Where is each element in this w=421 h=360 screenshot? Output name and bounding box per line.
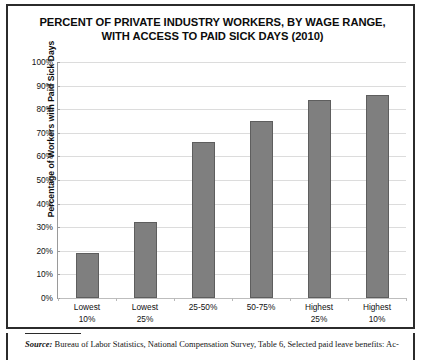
x-category-label-line-2: 25% — [116, 314, 174, 326]
x-category-label: Highest25% — [290, 302, 348, 325]
x-tick-mark — [174, 298, 175, 301]
y-tick-mark — [57, 156, 60, 157]
y-tick-mark — [57, 86, 60, 87]
x-tick-mark — [290, 298, 291, 301]
gridline-10% — [58, 274, 406, 275]
x-tick-mark — [348, 298, 349, 301]
footnote: Source: Bureau of Labor Statistics, Nati… — [25, 339, 403, 350]
y-tick-label: 10% — [9, 270, 53, 278]
x-category-label: Lowest25% — [116, 302, 174, 325]
y-tick-mark — [57, 133, 60, 134]
x-category-label-line-2: 10% — [58, 314, 116, 326]
chart-page: PERCENT OF PRIVATE INDUSTRY WORKERS, BY … — [0, 0, 421, 360]
x-category-label-line-1: Highest — [348, 302, 406, 314]
gridline-30% — [58, 227, 406, 228]
gridline-100% — [58, 62, 406, 63]
y-tick-mark — [57, 227, 60, 228]
page-left-rule — [6, 333, 8, 360]
x-category-label-line-1: 25-50% — [174, 302, 232, 314]
x-tick-mark — [232, 298, 233, 301]
x-category-label-line-1: Lowest — [58, 302, 116, 314]
x-tick-mark — [116, 298, 117, 301]
chart-title: PERCENT OF PRIVATE INDUSTRY WORKERS, BY … — [20, 15, 405, 43]
bar — [250, 121, 273, 298]
x-category-label-line-1: Highest — [290, 302, 348, 314]
y-tick-label: 60% — [9, 152, 53, 160]
y-tick-label: 20% — [9, 247, 53, 255]
x-category-label-line-2: 25% — [290, 314, 348, 326]
y-tick-label: 80% — [9, 105, 53, 113]
plot-area — [58, 62, 406, 298]
x-category-label: Highest10% — [348, 302, 406, 325]
footnote-rule — [25, 333, 81, 334]
y-tick-mark — [57, 251, 60, 252]
page-right-rule — [413, 333, 415, 360]
y-tick-mark — [57, 62, 60, 63]
x-axis-category-labels: Lowest10%Lowest25%25-50%50-75%Highest25%… — [58, 302, 406, 336]
chart-title-line-2: WITH ACCESS TO PAID SICK DAYS (2010) — [20, 29, 405, 43]
bar — [366, 95, 389, 298]
chart-frame: PERCENT OF PRIVATE INDUSTRY WORKERS, BY … — [6, 4, 415, 329]
y-tick-label: 40% — [9, 200, 53, 208]
gridline-70% — [58, 133, 406, 134]
gridline-60% — [58, 156, 406, 157]
bar — [192, 142, 215, 298]
bar — [134, 222, 157, 298]
gridline-80% — [58, 109, 406, 110]
x-category-label-line-2: 10% — [348, 314, 406, 326]
gridline-50% — [58, 180, 406, 181]
x-category-label: 25-50% — [174, 302, 232, 314]
y-tick-label: 0% — [9, 294, 53, 302]
gridline-90% — [58, 86, 406, 87]
y-tick-mark — [57, 274, 60, 275]
gridline-20% — [58, 251, 406, 252]
footnote-source-label: Source: — [25, 339, 52, 349]
chart-title-line-1: PERCENT OF PRIVATE INDUSTRY WORKERS, BY … — [20, 15, 405, 29]
footnote-text: Bureau of Labor Statistics, National Com… — [52, 339, 398, 349]
x-category-label: 50-75% — [232, 302, 290, 314]
bar — [308, 100, 331, 298]
y-tick-label: 50% — [9, 176, 53, 184]
y-tick-mark — [57, 204, 60, 205]
y-tick-label: 100% — [9, 58, 53, 66]
bar — [76, 253, 99, 298]
y-tick-label: 70% — [9, 129, 53, 137]
x-tick-mark — [58, 298, 59, 301]
y-tick-mark — [57, 109, 60, 110]
y-tick-label: 30% — [9, 223, 53, 231]
x-category-label: Lowest10% — [58, 302, 116, 325]
y-axis-tick-labels: 0%10%20%30%40%50%60%70%80%90%100% — [8, 62, 53, 299]
x-category-label-line-1: 50-75% — [232, 302, 290, 314]
x-tick-mark — [406, 298, 407, 301]
y-tick-label: 90% — [9, 82, 53, 90]
y-tick-mark — [57, 180, 60, 181]
gridline-40% — [58, 204, 406, 205]
x-category-label-line-1: Lowest — [116, 302, 174, 314]
